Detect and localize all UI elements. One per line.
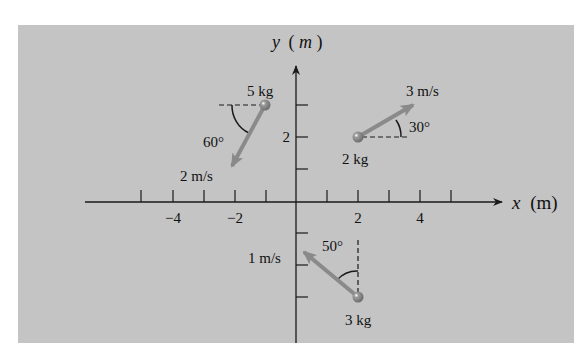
speed-label: 3 m/s	[406, 83, 439, 99]
mass-label: 2 kg	[342, 151, 369, 167]
angle-arc	[396, 120, 401, 137]
particle-2kg: 3 m/s 30° 2 kg	[342, 83, 439, 167]
x-axis: −4 −2 2 4 x (m)	[85, 190, 558, 226]
speed-label: 1 m/s	[248, 250, 281, 266]
velocity-arrow	[304, 252, 358, 297]
x-tick-label-2: 2	[354, 210, 362, 226]
velocity-arrow	[232, 105, 265, 166]
particle-ball	[353, 292, 364, 303]
mass-label: 5 kg	[247, 83, 274, 99]
velocity-arrow	[358, 105, 413, 137]
particle-diagram: −4 −2 2 4 x (m) 2 y ( m ) 5	[0, 0, 586, 355]
angle-label: 60°	[203, 134, 224, 150]
particle-ball	[260, 100, 271, 111]
y-ticks	[296, 105, 308, 297]
mass-label: 3 kg	[345, 312, 372, 328]
x-axis-label: x (m)	[511, 192, 558, 214]
y-axis-unit: m	[299, 32, 312, 52]
angle-label: 50°	[322, 238, 343, 254]
x-axis-var: x	[511, 192, 521, 213]
particle-ball	[353, 132, 364, 143]
y-tick-label-2: 2	[283, 129, 291, 145]
y-axis: 2 y ( m )	[270, 32, 323, 343]
angle-arc	[232, 105, 249, 133]
angle-arc	[337, 271, 358, 280]
x-tick-label-neg4: −4	[165, 210, 181, 226]
speed-label: 2 m/s	[180, 168, 213, 184]
x-tick-label-4: 4	[416, 210, 424, 226]
angle-label: 30°	[409, 119, 430, 135]
x-tick-label-neg2: −2	[227, 210, 243, 226]
x-axis-unit: (m)	[530, 192, 557, 214]
particle-5kg: 5 kg 60° 2 m/s	[180, 83, 274, 184]
particle-3kg: 50° 1 m/s 3 kg	[248, 238, 372, 328]
y-axis-var: y	[270, 32, 280, 52]
y-axis-label: y ( m )	[270, 32, 323, 53]
